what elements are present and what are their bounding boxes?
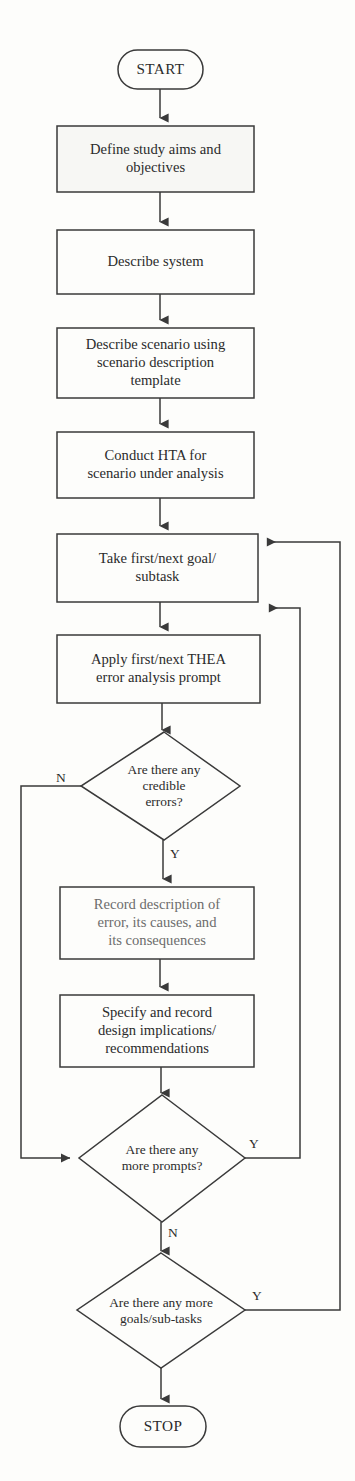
process-box-7-shape [60, 887, 254, 959]
process-box-3-shape [57, 328, 254, 398]
decision-diamond-1-shape [81, 732, 240, 840]
start-terminator-shape [118, 50, 203, 89]
decision-diamond-3-shape [77, 1253, 245, 1368]
stop-terminator-shape [120, 1406, 206, 1447]
loop-d1-no-to-d2 [21, 786, 81, 1158]
process-box-1-shape [57, 126, 254, 192]
flowchart-connectors [0, 0, 355, 1481]
process-box-6-shape [57, 635, 260, 703]
flowchart-canvas: START Define study aims and objectives D… [0, 0, 355, 1481]
process-box-4-shape [57, 432, 254, 498]
process-box-8-shape [60, 995, 254, 1067]
process-box-2-shape [57, 230, 254, 294]
decision-diamond-2-shape [79, 1095, 245, 1222]
process-box-5-shape [57, 534, 258, 602]
